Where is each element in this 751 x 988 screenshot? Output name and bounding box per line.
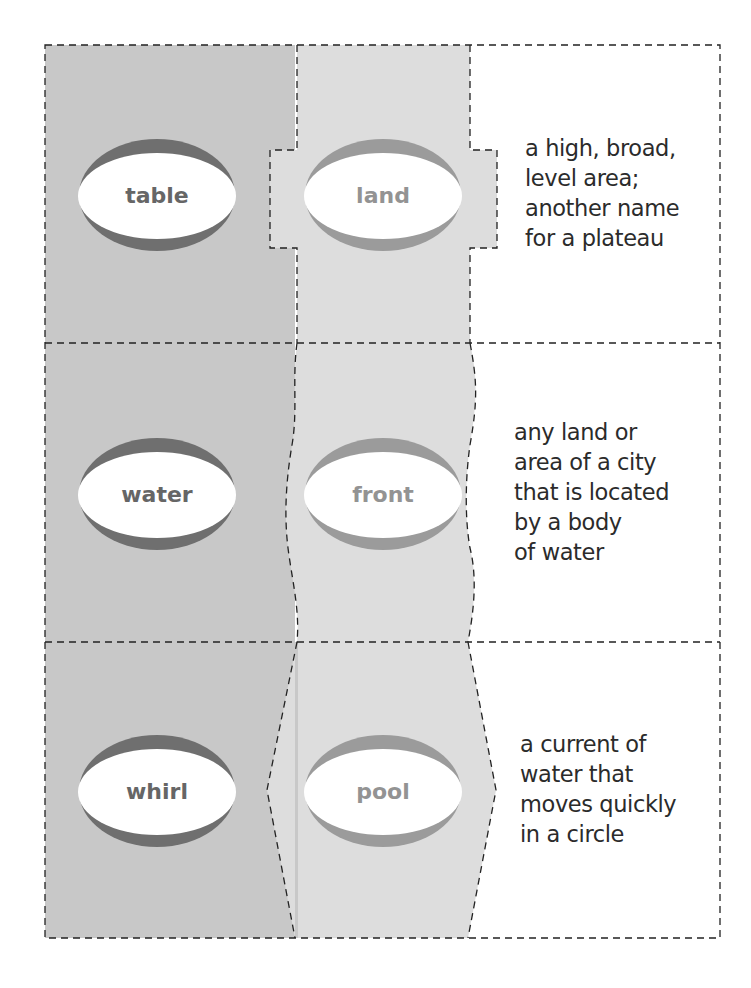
left-column-edge <box>295 642 298 938</box>
second-part-oval: front <box>304 438 462 550</box>
word-part: table <box>125 183 189 208</box>
definition-card: a high, broad,level area;another namefor… <box>525 133 679 253</box>
first-part-oval: table <box>78 139 236 251</box>
definition-line: level area; <box>525 163 679 193</box>
definition-line: by a body <box>514 507 669 537</box>
definition-line: a high, broad, <box>525 133 679 163</box>
definition-line: of water <box>514 537 669 567</box>
first-part-oval: whirl <box>78 735 236 847</box>
definition-line: a current of <box>520 729 676 759</box>
definition-line: in a circle <box>520 819 676 849</box>
definition-line: any land or <box>514 417 669 447</box>
definition-line: another name <box>525 193 679 223</box>
first-part-oval: water <box>78 438 236 550</box>
word-part: water <box>121 482 193 507</box>
word-part: pool <box>356 779 410 804</box>
definition-line: water that <box>520 759 676 789</box>
definition-line: moves quickly <box>520 789 676 819</box>
definition-line: for a plateau <box>525 223 679 253</box>
word-part: land <box>356 183 410 208</box>
word-part: whirl <box>126 779 188 804</box>
word-part: front <box>352 482 414 507</box>
second-part-oval: land <box>304 139 462 251</box>
definition-line: that is located <box>514 477 669 507</box>
definition-card: a current ofwater thatmoves quicklyin a … <box>520 729 676 849</box>
definition-card: any land orarea of a citythat is located… <box>514 417 669 567</box>
second-part-oval: pool <box>304 735 462 847</box>
definition-line: area of a city <box>514 447 669 477</box>
